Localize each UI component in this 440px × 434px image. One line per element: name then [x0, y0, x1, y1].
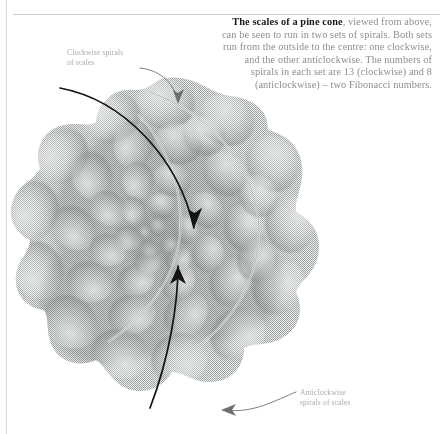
annotation-anticlockwise-line2: spirals of scales [300, 398, 410, 408]
caption-body: , viewed from above, can be seen to run … [222, 16, 432, 90]
page-top-rule [13, 14, 440, 15]
pine-cone-graphic [0, 70, 330, 410]
annotation-anticlockwise-line1: Anticlockwise [300, 388, 410, 398]
annotation-anticlockwise: Anticlockwise spirals of scales [300, 388, 410, 408]
annotation-clockwise-line2: of scales [67, 58, 163, 68]
pine-cone-illustration [0, 70, 330, 410]
caption-lead: The scales of a pine cone [232, 16, 342, 27]
figure-caption: The scales of a pine cone, viewed from a… [220, 16, 432, 92]
figure-page: Clockwise spirals of scales Anticlockwis… [0, 0, 440, 434]
annotation-clockwise-line1: Clockwise spirals [67, 48, 163, 58]
annotation-clockwise: Clockwise spirals of scales [67, 48, 163, 68]
